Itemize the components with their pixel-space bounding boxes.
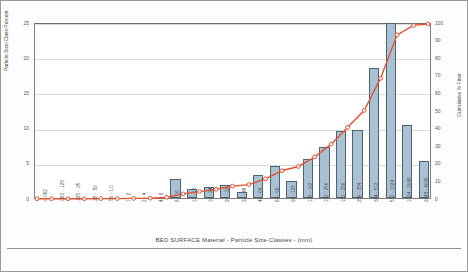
- y-axis-right-tick-label: 10: [435, 179, 441, 184]
- line-marker: [50, 197, 54, 201]
- x-axis-tick-label: .062 - .125: [61, 180, 66, 202]
- y-axis-right-tick-label: 50: [435, 109, 441, 114]
- y-axis-left-tick-label: 5: [9, 161, 29, 166]
- y-axis-right-tick-label: 20: [435, 161, 441, 166]
- x-axis-tick-label: < .062: [44, 189, 49, 202]
- y-axis-left-tick-label: 20: [9, 56, 29, 61]
- y-axis-right-tick-label: 80: [435, 56, 441, 61]
- line-marker: [35, 197, 39, 201]
- x-axis-tick-label: 512 - 1024: [391, 180, 396, 202]
- line-marker: [412, 24, 416, 28]
- line-marker: [148, 196, 152, 200]
- line-marker: [313, 155, 317, 159]
- x-axis-tick-label: 24 - 32: [226, 188, 231, 202]
- y-axis-left-title: Particle Size-Class Percent: [3, 61, 9, 71]
- x-axis-tick-label: 4 - 8: [160, 193, 165, 202]
- x-axis-tick-label: 192 - 256: [342, 183, 347, 202]
- y-axis-right-tick-label: 30: [435, 144, 441, 149]
- y-axis-right-tick-label: 0: [435, 197, 438, 202]
- x-axis-tick-label: 32 - 48: [243, 188, 248, 202]
- line-marker: [296, 165, 300, 169]
- line-marker: [379, 76, 383, 80]
- y-axis-left-tick-label: 25: [9, 21, 29, 26]
- y-axis-left-tick-label: 0: [9, 197, 29, 202]
- line-marker: [395, 33, 399, 37]
- x-axis-tick-label: 96 - 128: [292, 185, 297, 202]
- line-marker: [247, 183, 251, 187]
- y-axis-right-tick-label: 60: [435, 91, 441, 96]
- footer-rule: [7, 248, 461, 249]
- x-axis-tick-label: 8 - 16: [176, 190, 181, 202]
- y-axis-right-tick-label: 40: [435, 126, 441, 131]
- x-axis-tick-label: 1 - 2: [127, 193, 132, 202]
- line-marker: [362, 109, 366, 113]
- line-marker: [165, 195, 169, 199]
- line-marker: [115, 197, 119, 201]
- y-axis-left-tick-label: 15: [9, 91, 29, 96]
- y-axis-right-tick-label: 90: [435, 38, 441, 43]
- x-axis-tick-label: 12 - 16: [193, 188, 198, 202]
- line-marker: [426, 22, 430, 26]
- line-marker: [99, 197, 103, 201]
- line-marker: [181, 192, 185, 196]
- y-axis-right-title: Cumulative % Finer: [456, 73, 462, 117]
- x-axis-tick-label: 128 - 192: [309, 183, 314, 202]
- x-axis-tick-label: 192 - 256: [325, 183, 330, 202]
- x-axis-tick-label: .50 - 1.0: [110, 185, 115, 202]
- line-marker: [264, 177, 268, 181]
- line-marker: [280, 169, 284, 173]
- x-axis-tick-label: 2 - 4: [143, 193, 148, 202]
- x-axis-tick-label: 256 - 384: [358, 183, 363, 202]
- x-axis-tick-label: .125 - .25: [77, 183, 82, 202]
- line-marker: [329, 142, 333, 146]
- y-axis-right-tick-label: 100: [435, 21, 443, 26]
- x-axis-tick-label: 48 - 64: [259, 188, 264, 202]
- chart-figure: Particle Size-Class Percent Cumulative %…: [0, 0, 468, 272]
- x-axis-tick-label: 384 - 512: [375, 183, 380, 202]
- line-marker: [82, 197, 86, 201]
- plot-area: [34, 23, 431, 199]
- x-axis-tick-label: .25 - .50: [94, 185, 99, 202]
- x-axis-tick-label: 2048 - 4096: [425, 177, 430, 202]
- line-marker: [132, 197, 136, 201]
- line-marker: [231, 184, 235, 188]
- cumulative-line-series: [35, 24, 430, 199]
- y-axis-right-tick-label: 70: [435, 73, 441, 78]
- x-axis-ticks: < .062.062 - .125.125 - .25.25 - .50.50 …: [34, 202, 431, 234]
- x-axis-tick-label: 1024 - 2048: [408, 177, 413, 202]
- line-marker: [198, 190, 202, 194]
- x-axis-tick-label: 16 - 24: [209, 188, 214, 202]
- x-axis-title: BED SURFACE Material - Particle Size-Cla…: [1, 237, 467, 243]
- x-axis-tick-label: 64 - 96: [276, 188, 281, 202]
- cumulative-line: [37, 24, 428, 199]
- y-axis-left-tick-label: 10: [9, 126, 29, 131]
- line-marker: [214, 187, 218, 191]
- line-marker: [66, 197, 70, 201]
- line-marker: [346, 125, 350, 129]
